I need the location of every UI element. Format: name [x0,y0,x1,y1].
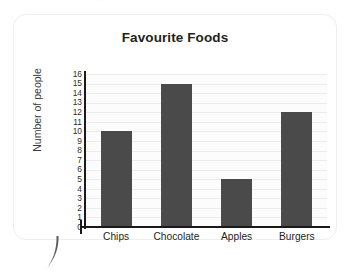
bar-apples [221,179,252,227]
clipped-text-fragment: ·· ··· [96,0,156,3]
bar-burgers [281,112,312,227]
origin-tick-mark [80,220,82,234]
y-axis-tick-labels: 161514131211109876543210 [58,74,82,227]
y-axis-tick-label: 1 [60,213,82,221]
y-axis-tick-label: 6 [60,165,82,173]
gridline [86,93,327,94]
chart-title: Favourite Foods [14,30,336,45]
y-axis-tick-label: 13 [60,98,82,106]
y-axis-tick-label: 11 [60,118,82,126]
bar-chips [101,131,132,227]
y-axis-tick-label: 4 [60,185,82,193]
y-axis-tick-label: 12 [60,108,82,116]
y-axis-tick-label: 5 [60,175,82,183]
x-axis-label-chips: Chips [86,231,146,242]
gridline [86,84,327,85]
x-axis-label-burgers: Burgers [267,231,327,242]
y-axis-tick-label: 10 [60,127,82,135]
y-axis-tick-label: 0 [60,223,82,231]
y-axis-tick-label: 2 [60,204,82,212]
x-axis-label-chocolate: Chocolate [146,231,206,242]
y-axis-tick-label: 14 [60,89,82,97]
y-axis-tick-label: 7 [60,156,82,164]
speech-bubble-card: Favourite Foods Number of people 1615141… [13,14,337,240]
x-axis-category-labels: ChipsChocolateApplesBurgers [86,231,327,249]
y-axis-label: Number of people [31,50,43,170]
speech-bubble-tail [45,236,61,270]
y-axis-line [84,71,86,229]
y-axis-tick-label: 15 [60,79,82,87]
y-axis-tick-label: 3 [60,194,82,202]
y-axis-tick-label: 9 [60,137,82,145]
plot-area [86,74,327,227]
x-axis-line [80,226,330,228]
y-axis-tick-label: 8 [60,146,82,154]
gridline [86,74,327,75]
x-axis-label-apples: Apples [207,231,267,242]
bar-chocolate [161,84,192,227]
y-axis-tick-label: 16 [60,70,82,78]
gridline [86,103,327,104]
